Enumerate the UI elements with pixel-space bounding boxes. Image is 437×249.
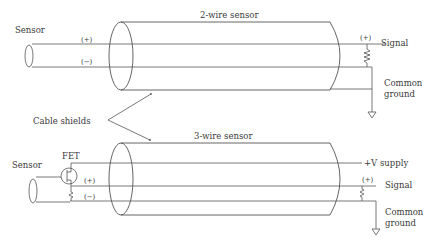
- bottom-load-resistor-icon: [360, 186, 364, 201]
- top-plus-label: (+): [81, 36, 93, 44]
- cable-shields-label: Cable shields: [33, 116, 91, 126]
- fet-transistor-icon: [61, 163, 77, 186]
- three-wire-sensor-diagram: 3-wire sensor Sensor FET (+) (−): [12, 131, 424, 235]
- bottom-signal-label: Signal: [385, 180, 413, 190]
- bottom-ground-label-1: Common: [385, 207, 424, 217]
- bottom-ground-icon: [372, 229, 380, 235]
- top-resistor-plus-label: (+): [360, 34, 372, 42]
- bottom-resistor-plus-label: (+): [362, 176, 374, 184]
- fet-label: FET: [62, 151, 80, 161]
- top-ground-icon: [368, 112, 376, 118]
- top-signal-label: Signal: [381, 38, 409, 48]
- top-cable-shield: [109, 22, 372, 90]
- bottom-ground-label-2: ground: [385, 218, 417, 228]
- sensor-wiring-diagram: 2-wire sensor Sensor (+) (−) (+) Signal …: [0, 0, 437, 249]
- cable-shields-pointer: [108, 94, 151, 140]
- bottom-cable-shield: [109, 143, 340, 215]
- top-ground-label-1: Common: [384, 78, 423, 88]
- bottom-minus-label: (−): [84, 193, 96, 201]
- bottom-sensor-label: Sensor: [12, 160, 43, 170]
- three-wire-title: 3-wire sensor: [194, 131, 253, 141]
- bottom-plus-label: (+): [84, 177, 96, 185]
- cable-shields-callout: Cable shields: [33, 93, 152, 141]
- two-wire-sensor-diagram: 2-wire sensor Sensor (+) (−) (+) Signal …: [15, 10, 423, 118]
- top-sensor-label: Sensor: [15, 25, 46, 35]
- top-minus-label: (−): [81, 58, 93, 66]
- top-load-resistor-icon: [364, 44, 370, 67]
- bottom-sensor-icon: [29, 179, 37, 203]
- two-wire-title: 2-wire sensor: [200, 10, 259, 20]
- top-sensor-icon: [25, 45, 33, 67]
- bottom-source-resistor-icon: [69, 186, 73, 201]
- supply-label: +V supply: [364, 158, 408, 168]
- top-ground-label-2: ground: [384, 89, 416, 99]
